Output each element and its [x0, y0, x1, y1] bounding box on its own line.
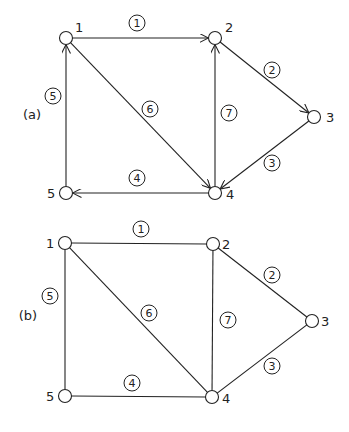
- node-2: [207, 238, 220, 251]
- edge-label-text: 7: [225, 314, 232, 327]
- edge-3-4: [220, 121, 309, 189]
- edge-label-text: 5: [47, 290, 54, 303]
- edge-label-text: 6: [146, 307, 153, 320]
- node-label-1: 1: [46, 236, 54, 251]
- edge-1-4: [69, 248, 207, 393]
- edge-label-6: 6: [141, 305, 157, 321]
- edge-label-7: 7: [221, 105, 237, 121]
- edge-label-4: 4: [129, 170, 145, 186]
- node-label-3: 3: [326, 110, 334, 125]
- node-label-3: 3: [321, 314, 329, 329]
- edge-label-text: 4: [129, 377, 136, 390]
- edge-label-1: 1: [129, 15, 145, 31]
- node-3: [306, 315, 319, 328]
- edge-label-text: 1: [134, 17, 141, 30]
- edge-label-2: 2: [264, 62, 280, 78]
- edge-label-1: 1: [133, 221, 149, 237]
- node-label-5: 5: [47, 186, 55, 201]
- edge-4-2: [212, 250, 213, 390]
- edge-3-4: [217, 325, 307, 393]
- edge-label-text: 2: [269, 269, 276, 282]
- node-5: [60, 187, 73, 200]
- edge-label-text: 4: [134, 172, 141, 185]
- node-label-2: 2: [222, 237, 230, 252]
- edge-label-2: 2: [264, 267, 280, 283]
- graph-diagram: 123456712345(a) 123456712345(b): [0, 0, 349, 432]
- edge-label-5: 5: [45, 88, 61, 104]
- node-label-1: 1: [75, 20, 83, 35]
- node-label-5: 5: [46, 389, 54, 404]
- node-1: [60, 32, 73, 45]
- edge-2-3: [218, 248, 307, 317]
- edge-label-text: 3: [269, 157, 276, 170]
- edge-label-4: 4: [124, 375, 140, 391]
- figure-a-directed-graph: 123456712345(a): [23, 15, 334, 202]
- edge-label-3: 3: [264, 358, 280, 374]
- node-label-4: 4: [222, 391, 230, 406]
- edge-label-6: 6: [142, 101, 158, 117]
- edge-label-text: 5: [50, 90, 57, 103]
- figure-label: (b): [19, 308, 37, 323]
- edge-label-7: 7: [220, 312, 236, 328]
- node-label-2: 2: [225, 20, 233, 35]
- node-2: [209, 32, 222, 45]
- edge-label-text: 3: [269, 360, 276, 373]
- edge-5-4: [71, 396, 205, 397]
- node-1: [59, 237, 72, 250]
- node-4: [209, 187, 222, 200]
- node-5: [59, 390, 72, 403]
- figure-b-undirected-graph: 123456712345(b): [19, 221, 329, 406]
- edge-1-2: [71, 243, 206, 244]
- edge-label-text: 1: [138, 223, 145, 236]
- node-4: [206, 391, 219, 404]
- edge-label-text: 6: [147, 103, 154, 116]
- figure-label: (a): [23, 107, 41, 122]
- edge-1-4: [71, 43, 211, 189]
- edge-label-text: 2: [269, 64, 276, 77]
- edge-label-5: 5: [42, 288, 58, 304]
- edge-label-text: 7: [226, 107, 233, 120]
- edge-2-3: [220, 42, 309, 113]
- edge-label-3: 3: [264, 155, 280, 171]
- node-3: [308, 111, 321, 124]
- node-label-4: 4: [226, 187, 234, 202]
